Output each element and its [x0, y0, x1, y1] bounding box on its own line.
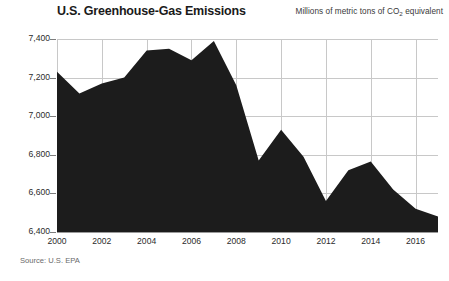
y-tick-label: 6,600 [6, 187, 50, 197]
chart-subtitle-suffix: equivalent [403, 7, 443, 16]
chart-subtitle-prefix: Millions of metric tons of CO [296, 7, 400, 16]
x-tick-label: 2008 [227, 236, 246, 246]
y-tick-label: 6,800 [6, 149, 50, 159]
x-tick-label: 2012 [316, 236, 335, 246]
y-axis-tick-labels: 7,4007,2007,0006,8006,6006,400 [0, 0, 50, 281]
source-note: Source: U.S. EPA [20, 256, 80, 265]
y-tick-mark [50, 232, 56, 233]
y-tick-label: 7,000 [6, 110, 50, 120]
x-tick-label: 2014 [361, 236, 380, 246]
chart-title: U.S. Greenhouse-Gas Emissions [57, 4, 246, 18]
chart-subtitle: Millions of metric tons of CO2 equivalen… [296, 7, 443, 16]
chart-figure: U.S. Greenhouse-Gas Emissions Millions o… [0, 0, 449, 281]
x-tick-label: 2000 [47, 236, 66, 246]
x-tick-label: 2010 [272, 236, 291, 246]
x-tick-label: 2004 [137, 236, 156, 246]
y-tick-mark [50, 155, 56, 156]
y-tick-label: 7,400 [6, 33, 50, 43]
y-tick-label: 7,200 [6, 72, 50, 82]
chart-header: U.S. Greenhouse-Gas Emissions Millions o… [0, 0, 449, 26]
area-series-svg [57, 39, 438, 232]
x-tick-label: 2006 [182, 236, 201, 246]
y-tick-mark [50, 193, 56, 194]
y-tick-mark [50, 78, 56, 79]
emissions-area-path [57, 41, 438, 232]
y-tick-mark [50, 116, 56, 117]
x-tick-label: 2016 [406, 236, 425, 246]
y-tick-label: 6,400 [6, 226, 50, 236]
y-tick-mark [50, 39, 56, 40]
plot-area [57, 39, 438, 232]
x-tick-label: 2002 [92, 236, 111, 246]
x-axis-line [57, 232, 438, 233]
chart-subtitle-subscript: 2 [399, 10, 403, 17]
